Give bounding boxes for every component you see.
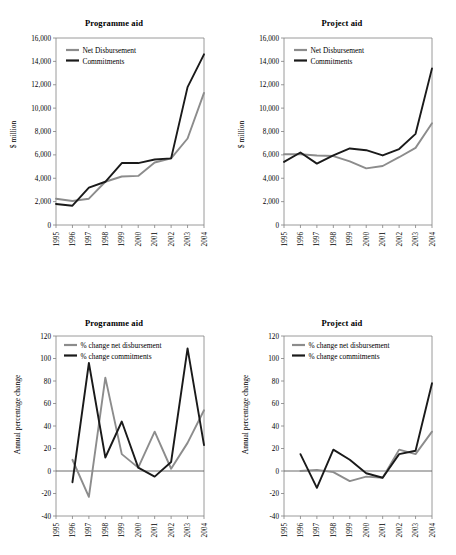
legend-label: Commitments [311,57,353,66]
y-tick-label: 60 [272,400,280,408]
x-tick-label: 2002 [168,523,176,538]
y-tick-label: 14,000 [31,58,51,66]
y-tick-label: 6,000 [35,151,52,159]
plot-top-right: 02,0004,0006,0008,00010,00012,00014,0001… [228,0,456,277]
legend-label: % change net disbursement [81,341,163,350]
y-tick-label: 60 [44,400,52,408]
y-tick-label: 0 [47,468,51,476]
legend-label: Net Disbursement [311,46,366,55]
x-tick-label: 1997 [313,232,321,247]
y-tick-label: -40 [41,513,51,521]
y-tick-label: 120 [40,333,51,341]
y-tick-label: -20 [41,490,51,498]
x-tick-label: 1995 [53,523,61,538]
data-series-line [300,383,432,488]
plot-bottom-right: -40-20020406080100120 199519961997199819… [228,298,456,555]
data-lines-top-right [284,68,432,168]
data-series-line [284,123,432,168]
y-tick-label: -40 [269,513,279,521]
legend-label: % change net disbursement [309,341,391,350]
y-tick-label: 80 [272,378,280,386]
x-ticks-top-left: 1995199619971998199920002001200220032004 [53,225,209,246]
chart-panel-top-right: Project aid $ million 02,0004,0006,0008,… [228,0,456,277]
x-ticks-bottom-right: 1995199619971998199920002001200220032004 [281,516,437,537]
x-tick-label: 1997 [85,232,93,247]
x-tick-label: 1999 [118,523,126,538]
y-tick-label: 0 [275,222,279,230]
x-tick-label: 2001 [379,232,387,247]
y-tick-label: 120 [268,333,279,341]
x-tick-label: 2004 [201,232,209,247]
x-tick-label: 2003 [184,523,192,538]
x-tick-label: 1996 [297,232,305,247]
y-tick-label: 40 [44,423,52,431]
x-ticks-top-right: 1995199619971998199920002001200220032004 [281,225,437,246]
y-tick-label: 0 [47,222,51,230]
x-tick-label: 1998 [102,232,110,247]
data-series-line [284,68,432,163]
y-tick-label: 20 [272,445,280,453]
y-tick-label: 6,000 [263,151,280,159]
x-tick-label: 1996 [69,523,77,538]
y-tick-label: 8,000 [263,128,280,136]
y-tick-label: 16,000 [259,35,279,43]
x-tick-label: 1995 [53,232,61,247]
legend-label: Commitments [83,57,125,66]
plot-bottom-left: -40-20020406080100120 199519961997199819… [0,298,228,555]
x-tick-label: 2000 [135,523,143,538]
x-tick-label: 2000 [363,232,371,247]
y-tick-label: 100 [40,355,51,363]
data-series-line [72,348,204,482]
y-tick-label: 2,000 [263,198,280,206]
y-tick-label: 12,000 [31,81,51,89]
legend-label: % change commitments [81,352,152,361]
data-series-line [72,378,204,497]
y-tick-label: 8,000 [35,128,52,136]
x-tick-label: 2004 [201,523,209,538]
x-tick-label: 1996 [69,232,77,247]
x-tick-label: 1995 [281,232,289,247]
x-tick-label: 2001 [379,523,387,538]
y-tick-label: 14,000 [259,58,279,66]
legend-label: % change commitments [309,352,380,361]
figure-panel-grid: Programme aid $ million 02,0004,0006,000… [0,0,456,555]
y-tick-label: 10,000 [259,105,279,113]
legend-top-left: Net DisbursementCommitments [66,46,137,66]
y-tick-label: 2,000 [35,198,52,206]
chart-panel-bottom-right: Project aid Annual percentage change -40… [228,298,456,555]
x-tick-label: 1999 [118,232,126,247]
y-tick-label: 4,000 [35,175,52,183]
x-tick-label: 2003 [412,232,420,247]
x-tick-label: 2000 [363,523,371,538]
data-lines-bottom-left [72,348,204,497]
x-ticks-bottom-left: 1995199619971998199920002001200220032004 [53,516,209,537]
y-tick-label: 40 [272,423,280,431]
y-ticks-bottom-right: -40-20020406080100120 [268,333,432,521]
data-lines-top-left [56,54,204,205]
y-tick-label: 16,000 [31,35,51,43]
x-tick-label: 1998 [330,523,338,538]
y-tick-label: 4,000 [263,175,280,183]
x-tick-label: 1999 [346,232,354,247]
x-tick-label: 2001 [151,232,159,247]
y-tick-label: 0 [275,468,279,476]
x-tick-label: 2002 [168,232,176,247]
legend-top-right: Net DisbursementCommitments [294,46,365,66]
plot-top-left: 02,0004,0006,0008,00010,00012,00014,0001… [0,0,228,277]
x-tick-label: 2003 [412,523,420,538]
legend-bottom-left: % change net disbursement% change commit… [64,341,163,361]
y-tick-label: 20 [44,445,52,453]
x-tick-label: 1997 [85,523,93,538]
data-lines-bottom-right [300,383,432,488]
x-tick-label: 2002 [396,523,404,538]
y-tick-label: 100 [268,355,279,363]
x-tick-label: 2004 [429,232,437,247]
data-series-line [56,54,204,205]
x-tick-label: 2003 [184,232,192,247]
legend-label: Net Disbursement [83,46,138,55]
x-tick-label: 1995 [281,523,289,538]
x-tick-label: 1999 [346,523,354,538]
y-ticks-bottom-left: -40-20020406080100120 [40,333,204,521]
y-tick-label: 12,000 [259,81,279,89]
x-tick-label: 2002 [396,232,404,247]
